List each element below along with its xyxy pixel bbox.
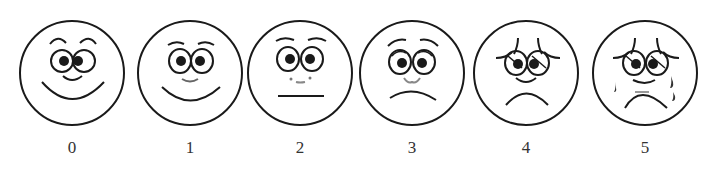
face-2: 2 [240,0,360,171]
face-5: 5 [585,0,705,171]
face-label: 3 [352,138,472,158]
slightly-sad-face-icon [352,16,472,131]
face-0: 0 [12,0,132,171]
face-3: 3 [352,0,472,171]
face-1: 1 [130,0,250,171]
neutral-face-icon [240,16,360,131]
happy-face-icon [130,16,250,131]
face-label: 1 [130,138,250,158]
face-label: 5 [585,138,705,158]
sad-face-icon [466,16,586,131]
face-label: 2 [240,138,360,158]
face-label: 4 [466,138,586,158]
face-label: 0 [12,138,132,158]
face-4: 4 [466,0,586,171]
very-happy-face-icon [12,16,132,131]
crying-face-icon [585,16,705,131]
